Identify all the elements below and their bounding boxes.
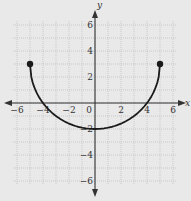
x-tick-label: −6	[10, 105, 24, 115]
x-tick-label: −2	[62, 105, 75, 115]
y-tick-label: 4	[87, 46, 93, 56]
graph: −6−4−20246642−2−4−6 x y	[0, 0, 191, 201]
x-tick-label: 0	[86, 105, 92, 115]
endpoint-dot	[157, 61, 163, 67]
arrow-down-icon	[92, 189, 98, 197]
x-tick-label: 2	[118, 105, 124, 115]
endpoint-dot	[27, 61, 33, 67]
y-tick-label: 2	[87, 72, 93, 82]
y-tick-label: 6	[87, 20, 93, 30]
y-axis-label: y	[96, 0, 103, 10]
y-tick-label: −6	[80, 176, 94, 186]
arrow-up-icon	[92, 10, 98, 18]
x-tick-label: 6	[170, 105, 176, 115]
y-tick-label: −4	[80, 150, 94, 160]
x-axis-label: x	[185, 98, 190, 108]
